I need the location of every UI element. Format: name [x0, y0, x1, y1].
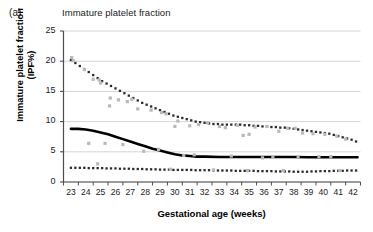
x-tick-label: 28 — [137, 187, 153, 197]
centile-marker — [70, 167, 72, 169]
centile-marker — [110, 85, 112, 87]
observation-marker — [294, 127, 297, 130]
centile-marker — [279, 170, 281, 172]
centile-marker — [319, 170, 321, 172]
centile-marker — [293, 171, 295, 173]
observation-marker — [98, 78, 101, 81]
centile-marker — [306, 130, 308, 132]
centile-marker — [328, 170, 330, 172]
observation-marker — [271, 155, 274, 158]
observation-marker — [301, 131, 304, 134]
centile-marker — [230, 123, 232, 125]
observation-marker — [297, 155, 300, 158]
centile-marker — [328, 133, 330, 135]
observation-marker — [126, 100, 129, 103]
centile-marker — [150, 105, 152, 107]
observation-marker — [121, 143, 124, 146]
y-tick-label: 0 — [30, 176, 56, 186]
x-tick-label: 42 — [345, 187, 361, 197]
centile-marker — [154, 107, 156, 109]
centile-marker — [310, 130, 312, 132]
centile-marker — [226, 169, 228, 171]
centile-marker — [123, 92, 125, 94]
x-tick-label: 23 — [63, 187, 79, 197]
observation-marker — [197, 123, 200, 126]
centile-marker — [279, 126, 281, 128]
centile-marker — [146, 104, 148, 106]
centile-marker — [244, 124, 246, 126]
observation-marker — [218, 125, 221, 128]
centile-marker — [315, 131, 317, 133]
centile-marker — [163, 168, 165, 170]
centile-marker — [324, 170, 326, 172]
observation-marker — [117, 98, 120, 101]
observation-marker — [236, 124, 239, 127]
observation-marker — [224, 126, 227, 129]
centile-marker — [355, 140, 357, 142]
centile-marker — [346, 169, 348, 171]
centile-marker — [123, 168, 125, 170]
centile-marker — [168, 113, 170, 115]
centile-marker — [159, 168, 161, 170]
centile-marker — [154, 168, 156, 170]
centile-marker — [132, 168, 134, 170]
centile-marker — [92, 167, 94, 169]
centile-marker — [270, 126, 272, 128]
observation-marker — [83, 68, 86, 71]
centile-marker — [333, 134, 335, 136]
observation-marker — [142, 150, 145, 153]
x-tick-label: 37 — [271, 187, 287, 197]
x-tick-marks — [64, 182, 361, 186]
x-tick-label: 29 — [152, 187, 168, 197]
centile-marker — [137, 99, 139, 101]
observation-marker — [335, 135, 338, 138]
centile-marker — [83, 167, 85, 169]
figure-panel: (a) Immature platelet fraction Immature … — [0, 0, 373, 232]
centile-marker — [261, 125, 263, 127]
y-tick-label: 25 — [30, 25, 56, 35]
centile-marker — [186, 169, 188, 171]
centile-marker — [208, 169, 210, 171]
observation-marker — [109, 96, 112, 99]
observation-marker — [329, 155, 332, 158]
centile-marker — [221, 123, 223, 125]
centile-marker — [195, 120, 197, 122]
centile-marker — [217, 169, 219, 171]
observation-marker — [96, 162, 99, 165]
centile-marker — [244, 170, 246, 172]
centile-marker — [333, 170, 335, 172]
observation-marker — [108, 104, 111, 107]
x-tick-label: 41 — [330, 187, 346, 197]
observation-marker — [164, 112, 167, 115]
observation-marker — [230, 154, 233, 157]
centile-marker — [288, 170, 290, 172]
centile-marker — [284, 126, 286, 128]
centile-marker — [266, 170, 268, 172]
observation-marker — [212, 168, 215, 171]
centile-marker — [150, 168, 152, 170]
observation-marker — [130, 98, 133, 101]
observation-marker — [173, 125, 176, 128]
centile-marker — [146, 168, 148, 170]
observation-marker — [188, 124, 191, 127]
x-tick-label: 38 — [286, 187, 302, 197]
centile-marker — [141, 102, 143, 104]
centile-marker — [88, 167, 90, 169]
centile-marker — [92, 74, 94, 76]
centile-marker — [105, 82, 107, 84]
observation-marker — [160, 111, 163, 114]
centile-marker — [181, 169, 183, 171]
observation-marker — [150, 109, 153, 112]
centile-marker — [190, 169, 192, 171]
centile-marker — [114, 87, 116, 89]
centile-marker — [137, 168, 139, 170]
observation-marker — [169, 168, 172, 171]
observation-marker — [193, 153, 196, 156]
plot-area — [0, 0, 373, 232]
centile-marker — [190, 119, 192, 121]
y-tick-label: 15 — [30, 85, 56, 95]
centile-marker — [226, 123, 228, 125]
observation-marker — [87, 142, 90, 145]
centile-marker — [203, 122, 205, 124]
centile-marker — [261, 170, 263, 172]
